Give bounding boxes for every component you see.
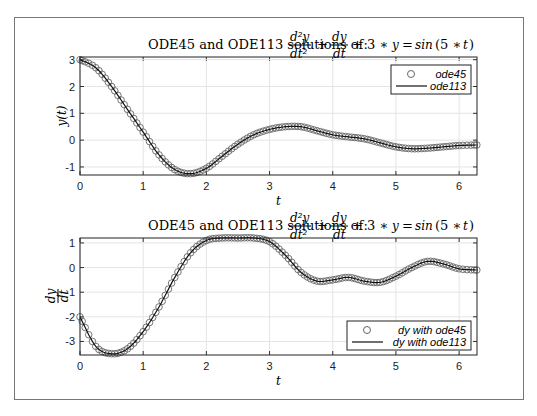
svg-text:dt: dt: [333, 47, 346, 61]
dydt-axis-label: dydt: [44, 289, 71, 304]
y-tick-label: 0: [69, 262, 75, 274]
y-tick-label: -2: [65, 311, 75, 323]
y-tick-label: -3: [65, 335, 75, 347]
x-tick-label: 6: [456, 180, 462, 192]
svg-text:(5 ∗: (5 ∗: [435, 37, 461, 52]
x-tick-label: 2: [203, 180, 209, 192]
svg-text:ode113: ode113: [430, 80, 467, 92]
y-plot: 0123456-10123ODE45 and ODE113 solutions …: [65, 30, 480, 208]
svg-text:+ 3 ∗: + 3 ∗: [352, 218, 388, 233]
svg-text:+: +: [317, 37, 328, 52]
svg-text:dt²: dt²: [290, 228, 308, 242]
svg-text:y: y: [391, 38, 399, 52]
svg-text:t: t: [463, 38, 468, 52]
svg-text:t: t: [463, 219, 468, 233]
y-tick-label: -1: [65, 161, 75, 173]
svg-text:=: =: [402, 37, 413, 52]
svg-text:sin: sin: [415, 219, 433, 233]
legend[interactable]: ode45ode113: [391, 65, 471, 94]
svg-text:+ 3 ∗: + 3 ∗: [352, 37, 388, 52]
svg-text:dt: dt: [333, 228, 346, 242]
svg-text:(5 ∗: (5 ∗: [435, 218, 461, 233]
x-axis-label: t: [276, 194, 281, 208]
x-tick-label: 0: [77, 360, 83, 372]
svg-text:dy with ode113: dy with ode113: [393, 336, 467, 348]
svg-text:=: =: [402, 218, 413, 233]
svg-text:dy: dy: [332, 211, 347, 225]
y-axis-label: y(t): [55, 105, 69, 127]
equation: d²ydt²+dydt+ 3 ∗ y=sin(5 ∗ t): [289, 211, 474, 242]
x-tick-label: 3: [266, 180, 272, 192]
y-tick-label: 1: [69, 237, 75, 249]
x-tick-label: 2: [203, 360, 209, 372]
svg-text:sin: sin: [415, 38, 433, 52]
x-tick-label: 3: [266, 360, 272, 372]
svg-text:ode45: ode45: [435, 68, 466, 80]
svg-text:+: +: [317, 218, 328, 233]
figure: 0123456-10123ODE45 and ODE113 solutions …: [0, 0, 537, 416]
svg-text:dy: dy: [44, 289, 58, 304]
equation: d²ydt²+dydt+ 3 ∗ y=sin(5 ∗ t): [289, 30, 474, 61]
x-tick-label: 5: [393, 360, 399, 372]
x-tick-label: 0: [77, 180, 83, 192]
y-tick-label: 3: [69, 54, 75, 66]
svg-text:): ): [469, 218, 474, 233]
svg-text:dt²: dt²: [290, 47, 308, 61]
x-tick-label: 1: [140, 180, 146, 192]
legend[interactable]: dy with ode45dy with ode113: [347, 321, 471, 350]
x-tick-label: 4: [330, 180, 336, 192]
x-tick-label: 1: [140, 360, 146, 372]
y-tick-label: 2: [69, 81, 75, 93]
svg-text:dy with ode45: dy with ode45: [398, 324, 467, 336]
svg-text:y: y: [391, 219, 399, 233]
svg-text:dt: dt: [57, 290, 71, 303]
dydt-plot: 0123456-3-2-101ODE45 and ODE113 solution…: [65, 211, 480, 388]
y-tick-label: 0: [69, 134, 75, 146]
y-tick-label: 1: [69, 107, 75, 119]
x-tick-label: 5: [393, 180, 399, 192]
svg-text:dy: dy: [332, 30, 347, 44]
svg-text:d²y: d²y: [290, 211, 309, 225]
svg-text:d²y: d²y: [290, 30, 309, 44]
x-axis-label: t: [276, 374, 281, 388]
x-tick-label: 6: [456, 360, 462, 372]
x-tick-label: 4: [330, 360, 336, 372]
svg-text:): ): [469, 37, 474, 52]
